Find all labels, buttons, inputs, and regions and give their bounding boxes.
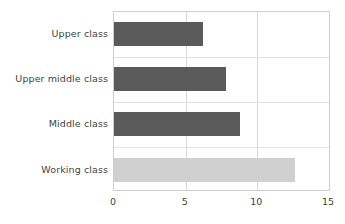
xtick-label-15: 15 — [322, 196, 334, 207]
category-label-middle-class: Middle class — [49, 118, 108, 129]
xtick-label-0: 0 — [110, 196, 116, 207]
gridline-row-2 — [114, 102, 329, 103]
category-label-upper-class: Upper class — [52, 28, 108, 39]
bar-upper-class — [114, 22, 203, 46]
xtick-label-10: 10 — [250, 196, 262, 207]
plot-area — [113, 11, 330, 191]
category-label-upper-middle-class: Upper middle class — [15, 73, 108, 84]
category-label-working-class: Working class — [41, 164, 108, 175]
gridline-row-3 — [114, 147, 329, 148]
bar-chart: Upper class Upper middle class Middle cl… — [0, 0, 345, 224]
xtick-label-5: 5 — [182, 196, 188, 207]
bar-working-class — [114, 158, 295, 182]
bar-middle-class — [114, 112, 240, 136]
bar-upper-middle-class — [114, 67, 226, 91]
gridline-row-1 — [114, 57, 329, 58]
